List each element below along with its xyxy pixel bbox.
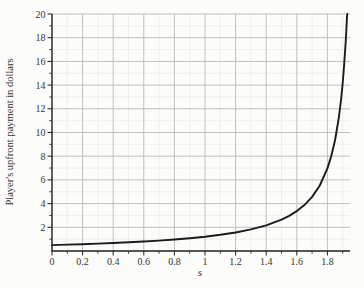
svg-text:2: 2 [41,222,46,233]
data-curve [52,14,347,245]
svg-text:12: 12 [36,103,46,114]
chart-figure: 00.20.40.60.811.21.41.61.824681012141618… [0,0,364,288]
svg-text:0.2: 0.2 [76,256,89,267]
y-axis-title: Player's upfront payment in dollars [4,58,15,205]
svg-text:4: 4 [41,198,46,209]
svg-text:0: 0 [50,256,55,267]
plot-svg: 00.20.40.60.811.21.41.61.824681012141618… [0,0,364,288]
svg-text:1.4: 1.4 [260,256,273,267]
svg-text:0.8: 0.8 [168,256,181,267]
svg-text:0.4: 0.4 [107,256,120,267]
svg-text:8: 8 [41,151,46,162]
tick-labels: 00.20.40.60.811.21.41.61.824681012141618… [36,9,334,267]
svg-text:1.8: 1.8 [321,256,334,267]
svg-text:6: 6 [41,174,46,185]
x-axis-title: s [198,266,202,278]
svg-text:0.6: 0.6 [138,256,151,267]
svg-text:10: 10 [36,127,46,138]
svg-text:14: 14 [36,80,46,91]
svg-text:1.6: 1.6 [291,256,304,267]
tick-marks [48,14,343,256]
svg-text:18: 18 [36,32,46,43]
svg-text:1.2: 1.2 [229,256,242,267]
svg-text:16: 16 [36,56,46,67]
svg-text:20: 20 [36,9,46,20]
svg-text:1: 1 [203,256,208,267]
